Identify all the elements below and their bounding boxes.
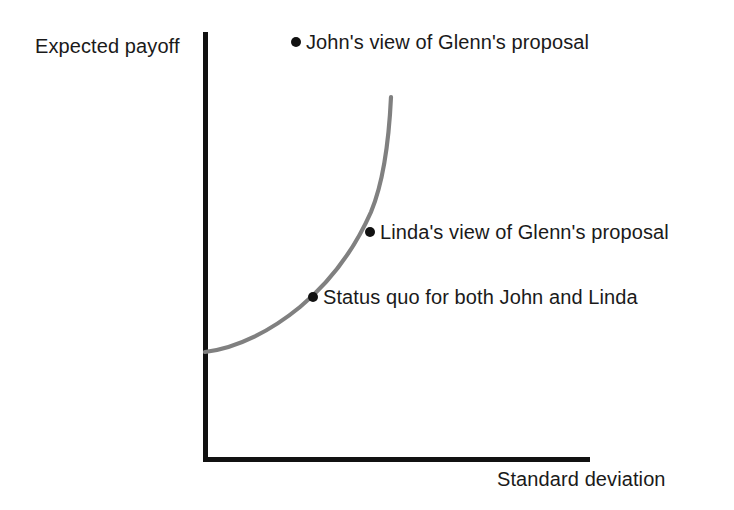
indifference-curve [205,97,391,352]
annotation-label-john: John's view of Glenn's proposal [306,31,589,54]
marker-linda [365,227,375,237]
marker-john [291,37,301,47]
chart-canvas: Expected payoff Standard deviation John'… [0,0,734,510]
annotation-label-status-quo: Status quo for both John and Linda [323,286,638,309]
y-axis-title: Expected payoff [35,35,180,58]
marker-status-quo [308,292,318,302]
annotation-label-linda: Linda's view of Glenn's proposal [380,221,669,244]
chart-plot-area [0,0,734,510]
x-axis-title: Standard deviation [497,468,666,491]
